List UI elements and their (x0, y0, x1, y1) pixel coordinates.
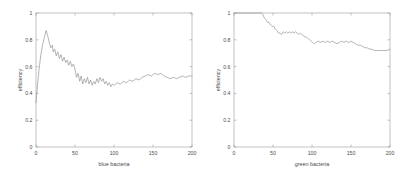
x-tick-label: 150 (347, 150, 356, 156)
chart-panel-green-bacteria: 05010015020000.20.40.60.81 green bacteri… (203, 0, 406, 177)
chart-green-bacteria: 05010015020000.20.40.60.81 green bacteri… (203, 0, 406, 177)
chart-blue-bacteria: 05010015020000.20.40.60.81 blue bacteria… (0, 0, 203, 177)
tick-labels-left: 05010015020000.20.40.60.81 (25, 10, 196, 156)
y-tick-label: 0.4 (223, 90, 230, 96)
figure-container: 05010015020000.20.40.60.81 blue bacteria… (0, 0, 406, 177)
x-tick-label: 0 (233, 150, 236, 156)
y-tick-label: 0.8 (25, 37, 32, 43)
x-axis-title-right: green bacteria (295, 161, 329, 167)
y-tick-label: 0.6 (25, 64, 32, 70)
tick-marks-left (36, 13, 192, 147)
x-tick-label: 150 (149, 150, 158, 156)
x-tick-label: 50 (72, 150, 78, 156)
data-line-blue-bacteria (36, 30, 192, 102)
x-tick-label: 100 (308, 150, 317, 156)
y-tick-label: 0.6 (223, 64, 230, 70)
chart-panel-blue-bacteria: 05010015020000.20.40.60.81 blue bacteria… (0, 0, 203, 177)
tick-marks-right (234, 13, 390, 147)
x-tick-label: 50 (270, 150, 276, 156)
data-line-green-bacteria (234, 13, 390, 51)
x-tick-label: 0 (35, 150, 38, 156)
x-axis-title-left: blue bacteria (99, 161, 130, 167)
tick-labels-right: 05010015020000.20.40.60.81 (223, 10, 394, 156)
y-tick-label: 1 (30, 10, 33, 16)
y-tick-label: 0.4 (25, 90, 32, 96)
y-axis-title-left: efficiency (17, 69, 23, 92)
x-tick-label: 200 (386, 150, 395, 156)
x-tick-label: 100 (110, 150, 119, 156)
y-tick-label: 0.2 (25, 117, 32, 123)
y-tick-label: 0 (30, 144, 33, 150)
plot-axes-right (234, 13, 390, 147)
y-tick-label: 0.2 (223, 117, 230, 123)
y-axis-title-right: efficiency (215, 69, 221, 92)
y-tick-label: 0.8 (223, 37, 230, 43)
plot-axes-left (36, 13, 192, 147)
y-tick-label: 1 (228, 10, 231, 16)
y-tick-label: 0 (228, 144, 231, 150)
x-tick-label: 200 (188, 150, 197, 156)
